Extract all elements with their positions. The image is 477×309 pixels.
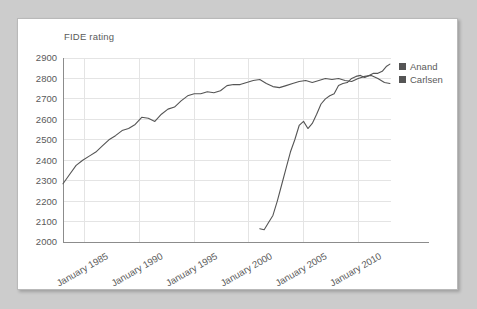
- x-axis-tick-labels: January 1985January 1990January 1995Janu…: [55, 250, 384, 288]
- svg-text:2500: 2500: [36, 134, 57, 145]
- svg-text:2800: 2800: [36, 73, 57, 84]
- svg-text:January 1990: January 1990: [109, 250, 164, 288]
- y-axis-tick-labels: 2000210022002300240025002600270028002900: [36, 52, 57, 247]
- svg-text:January 2010: January 2010: [328, 250, 383, 288]
- gridlines-horizontal: [63, 58, 391, 222]
- series-lines: [63, 64, 390, 230]
- svg-text:2200: 2200: [36, 196, 57, 207]
- svg-text:Carlsen: Carlsen: [410, 74, 443, 85]
- screenshot-root: FIDE rating 2000210022002300240025002600…: [0, 0, 477, 309]
- svg-text:January 1995: January 1995: [164, 250, 219, 288]
- svg-text:Anand: Anand: [410, 61, 437, 72]
- svg-text:2000: 2000: [36, 236, 57, 247]
- svg-text:2100: 2100: [36, 216, 57, 227]
- chart-legend: AnandCarlsen: [399, 61, 443, 85]
- svg-text:2900: 2900: [36, 52, 57, 63]
- svg-text:January 2005: January 2005: [273, 250, 328, 288]
- chart-card: FIDE rating 2000210022002300240025002600…: [17, 18, 458, 290]
- axis-lines: [63, 58, 429, 242]
- svg-text:January 1985: January 1985: [55, 250, 110, 288]
- chart-plot: 2000210022002300240025002600270028002900…: [18, 19, 459, 291]
- svg-text:January 2000: January 2000: [219, 250, 274, 288]
- svg-text:2400: 2400: [36, 155, 57, 166]
- svg-text:2600: 2600: [36, 114, 57, 125]
- gridlines-vertical: [85, 58, 358, 242]
- svg-text:2700: 2700: [36, 93, 57, 104]
- svg-text:2300: 2300: [36, 175, 57, 186]
